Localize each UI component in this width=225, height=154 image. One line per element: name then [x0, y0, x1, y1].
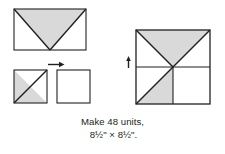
half-square-triangle-unit: [14, 70, 47, 103]
plain-square-fill: [57, 70, 90, 103]
arrow-head-right: [59, 62, 65, 67]
caption-line-1: Make 48 units,: [0, 116, 225, 129]
diagram-stage: Make 48 units, 8½" × 8½".: [0, 0, 225, 154]
caption: Make 48 units, 8½" × 8½".: [0, 116, 225, 141]
press-direction-arrow-right: [48, 62, 65, 67]
assembled-block: [126, 30, 210, 104]
arrow-head-up: [126, 56, 131, 61]
plain-square-unit: [57, 70, 90, 103]
caption-line-2: 8½" × 8½".: [0, 129, 225, 142]
press-direction-arrow-up: [126, 56, 131, 68]
flying-geese-rectangle: [14, 9, 86, 50]
